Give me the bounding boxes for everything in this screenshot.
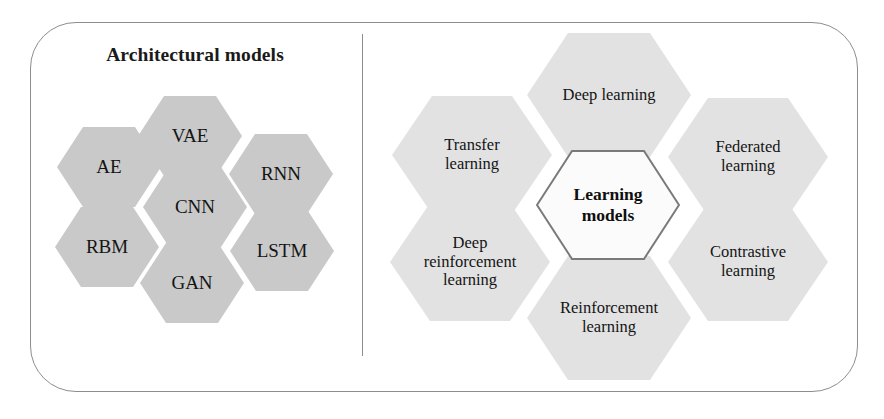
vertical-divider (362, 34, 363, 356)
hex-center-label-line2: models (582, 205, 635, 225)
hexagon-taxonomy-figure: Architectural models VAEAERNNCNNRBMLSTMG… (0, 0, 884, 419)
hex-label-learning-models: Learningmodels (536, 150, 680, 260)
hex-label-contrastive-learning: Contrastivelearning (708, 243, 788, 281)
hex-label-deep-learning: Deep learning (561, 86, 658, 105)
hex-label-transfer-learning: Transferlearning (442, 136, 501, 174)
page-title-architectural-models: Architectural models (60, 44, 330, 66)
hex-label-federated-learning: Federatedlearning (713, 138, 782, 176)
hex-label-ae: AE (94, 156, 123, 178)
hex-label-vae: VAE (170, 125, 211, 147)
hex-label-rbm: RBM (84, 236, 130, 258)
hex-label-deep-reinforcement-learning: Deepreinforcementlearning (422, 234, 519, 290)
hex-learning-models[interactable]: Learningmodels (536, 150, 680, 260)
hex-label-reinforcement-learning: Reinforcementlearning (558, 299, 660, 337)
hex-center-label-stack: Learningmodels (573, 184, 642, 225)
hex-label-rnn: RNN (259, 163, 303, 185)
hex-center-label-line1: Learning (573, 184, 642, 204)
hex-label-lstm: LSTM (255, 240, 310, 262)
hex-label-gan: GAN (169, 272, 214, 294)
hex-label-cnn: CNN (173, 196, 217, 218)
